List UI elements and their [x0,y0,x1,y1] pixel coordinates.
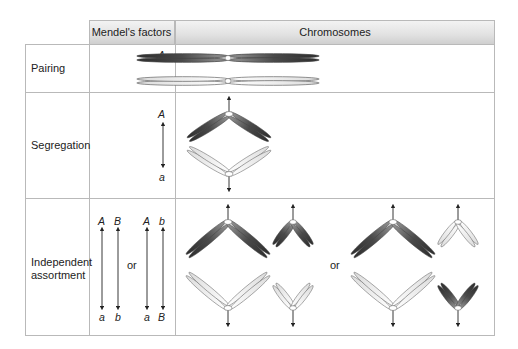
assortment-option1-small-dark [271,206,315,248]
segregation-dark-chromosome [186,98,272,144]
assortment-option2-small-light [436,206,480,248]
assortment-option2-large-light [349,270,436,325]
segregation-light-chromosome [186,144,272,190]
pairing-dark-chromosome [137,54,319,63]
pairing-light-chromosome [137,77,319,86]
assortment-option2-large-dark [349,206,436,260]
assortment-option1-small-light [271,282,315,325]
assortment-option2-small-dark [436,282,480,325]
assortment-option1-large-light [184,270,271,325]
assortment-option1-large-dark [184,206,271,260]
chromosome-diagram [0,0,518,349]
